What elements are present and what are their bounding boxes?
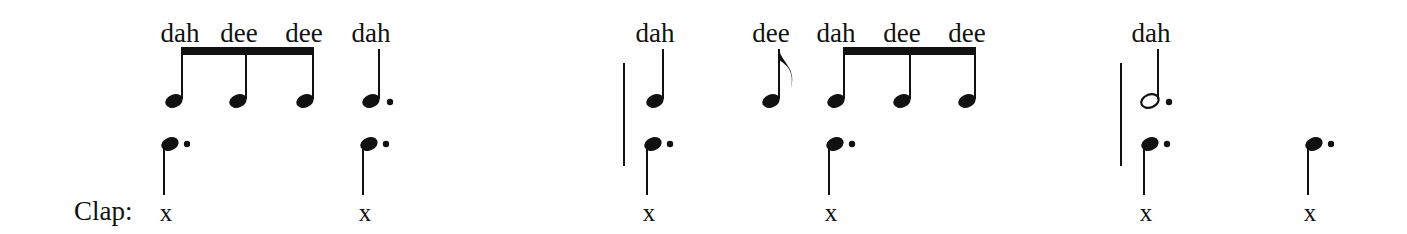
syllable-dee: dee bbox=[285, 20, 322, 47]
clap-mark: x bbox=[160, 200, 173, 225]
syllable-dee: dee bbox=[752, 20, 789, 47]
augmentation-dot bbox=[387, 99, 393, 105]
syllable-dee: dee bbox=[948, 20, 985, 47]
augmentation-dot bbox=[667, 141, 673, 147]
clap-mark: x bbox=[1304, 200, 1317, 225]
augmentation-dot bbox=[1166, 99, 1172, 105]
clap-mark: x bbox=[643, 200, 656, 225]
syllable-dee: dee bbox=[883, 20, 920, 47]
beat-note-head bbox=[642, 135, 664, 154]
beat-note-head bbox=[824, 135, 846, 154]
syllable-dah: dah bbox=[1132, 20, 1171, 47]
rhythm-notation: Clap: dahdeedeedahxxdahdeedahdeedeexxdah… bbox=[0, 0, 1407, 234]
syllable-dah: dah bbox=[817, 20, 856, 47]
syllable-dee: dee bbox=[220, 20, 257, 47]
clap-mark: x bbox=[825, 200, 838, 225]
eighth-flag-icon bbox=[779, 49, 792, 88]
syllable-dah: dah bbox=[161, 20, 200, 47]
augmentation-dot bbox=[849, 141, 855, 147]
beat-note-head bbox=[358, 135, 380, 154]
clap-mark: x bbox=[359, 200, 372, 225]
clap-mark: x bbox=[1140, 200, 1153, 225]
notation-graphics bbox=[0, 0, 1407, 234]
beam bbox=[181, 47, 314, 55]
beat-note-head bbox=[159, 135, 181, 154]
syllable-dah: dah bbox=[636, 20, 675, 47]
beam bbox=[843, 47, 976, 55]
beat-note-head bbox=[1303, 135, 1325, 154]
clap-label: Clap: bbox=[74, 198, 133, 225]
augmentation-dot bbox=[1328, 141, 1334, 147]
beat-note-head bbox=[1139, 135, 1161, 154]
augmentation-dot bbox=[383, 141, 389, 147]
augmentation-dot bbox=[1164, 141, 1170, 147]
augmentation-dot bbox=[184, 141, 190, 147]
syllable-dah: dah bbox=[352, 20, 391, 47]
